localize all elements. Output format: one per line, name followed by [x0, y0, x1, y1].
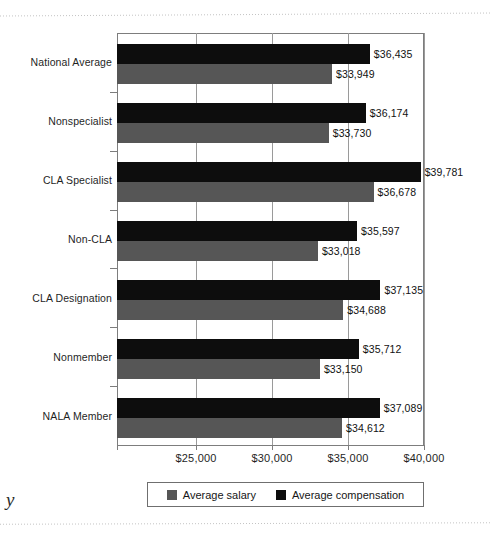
bar-average-compensation-cla-specialist[interactable] [117, 162, 421, 182]
bar-average-compensation-nala-member[interactable] [117, 398, 380, 418]
y-tick-mark [110, 92, 117, 93]
x-tick-mark [272, 445, 273, 450]
bar-value-label: $34,612 [346, 422, 385, 434]
category-label-nala-member: NALA Member [43, 410, 112, 422]
bar-value-label: $35,712 [363, 343, 402, 355]
legend-label-average-compensation: Average compensation [292, 489, 404, 501]
legend-label-average-salary: Average salary [183, 489, 256, 501]
category-label-national-average: National Average [31, 56, 112, 68]
chart-legend: Average salary Average compensation [147, 482, 424, 507]
x-tick-mark [348, 445, 349, 450]
legend-swatch-icon-average-salary [167, 490, 177, 500]
x-tick-label: $25,000 [175, 452, 216, 464]
gridline-40000 [424, 33, 425, 445]
horizontal-bar-chart: $25,000$30,000$35,000$40,000 National Av… [0, 0, 491, 538]
category-label-cla-specialist: CLA Specialist [43, 174, 112, 186]
bar-value-label: $37,089 [384, 402, 423, 414]
x-tick-label: $35,000 [327, 452, 368, 464]
bar-value-label: $37,135 [384, 284, 423, 296]
y-tick-mark [110, 151, 117, 152]
bar-average-salary-nonmember[interactable] [117, 359, 320, 379]
category-label-non-cla: Non-CLA [68, 233, 112, 245]
bar-average-salary-nonspecialist[interactable] [117, 123, 329, 143]
bar-value-label: $36,174 [370, 107, 409, 119]
y-tick-mark [110, 327, 117, 328]
x-tick-label: $30,000 [251, 452, 292, 464]
y-tick-mark [110, 268, 117, 269]
legend-item-average-salary[interactable]: Average salary [167, 489, 256, 501]
category-label-cla-designation: CLA Designation [32, 292, 112, 304]
bar-average-salary-cla-designation[interactable] [117, 300, 343, 320]
x-axis-line [117, 445, 424, 446]
bar-value-label: $36,435 [374, 48, 413, 60]
bar-average-compensation-nonmember[interactable] [117, 339, 359, 359]
bar-average-salary-non-cla[interactable] [117, 241, 318, 261]
bar-average-compensation-nonspecialist[interactable] [117, 103, 366, 123]
y-tick-mark [110, 210, 117, 211]
legend-swatch-icon-average-compensation [276, 490, 286, 500]
bar-value-label: $35,597 [361, 225, 400, 237]
x-axis-origin-tick [117, 445, 118, 450]
x-tick-label: $40,000 [403, 452, 444, 464]
x-tick-mark [196, 445, 197, 450]
bar-average-salary-cla-specialist[interactable] [117, 182, 374, 202]
x-tick-mark [424, 445, 425, 450]
bar-average-salary-national-average[interactable] [117, 64, 332, 84]
bar-value-label: $33,150 [324, 363, 363, 375]
bar-average-compensation-national-average[interactable] [117, 44, 370, 64]
category-label-nonmember: Nonmember [53, 351, 112, 363]
bar-average-compensation-non-cla[interactable] [117, 221, 357, 241]
category-label-nonspecialist: Nonspecialist [48, 115, 112, 127]
bar-value-label: $36,678 [378, 186, 417, 198]
bar-value-label: $34,688 [347, 304, 386, 316]
bar-value-label: $39,781 [425, 166, 464, 178]
bar-average-salary-nala-member[interactable] [117, 418, 342, 438]
bar-value-label: $33,730 [333, 127, 372, 139]
bar-average-compensation-cla-designation[interactable] [117, 280, 380, 300]
bar-value-label: $33,949 [336, 68, 375, 80]
legend-item-average-compensation[interactable]: Average compensation [276, 489, 404, 501]
bar-value-label: $33,018 [322, 245, 361, 257]
y-tick-mark [110, 386, 117, 387]
